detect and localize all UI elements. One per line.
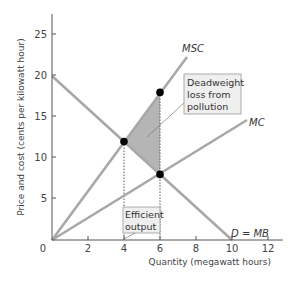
mc-label: MC (249, 117, 265, 128)
efficient-output-leader-line (124, 233, 135, 239)
x-tick-label: 6 (157, 243, 163, 254)
y-tick-label: 20 (34, 70, 47, 81)
dwl-annotation-line3: pollution (187, 101, 228, 112)
msc-curve (52, 57, 187, 240)
dwl-annotation-line2: loss from (187, 89, 230, 100)
x-axis-title: Quantity (megawatt hours) (149, 257, 271, 267)
y-tick-label: 15 (34, 111, 47, 122)
x-tick-label: 2 (85, 243, 91, 254)
msc-market-point (156, 89, 164, 97)
y-tick-label: 10 (34, 152, 47, 163)
market-equilibrium-point (156, 171, 164, 179)
demand-mb-label: D = MB (231, 228, 269, 239)
efficient-output-line2: output (125, 221, 157, 232)
origin-label: 0 (40, 243, 46, 254)
y-tick-label: 25 (34, 29, 47, 40)
x-tick-label: 4 (121, 243, 127, 254)
x-tick-label: 10 (226, 243, 239, 254)
y-tick-label: 5 (41, 193, 47, 204)
x-tick-label: 12 (262, 243, 275, 254)
y-axis-title: Price and cost (cents per kilowatt hour) (16, 38, 26, 215)
efficient-output-line1: Efficient (125, 209, 164, 220)
chart-canvas: 25 20 15 10 5 0 2 4 6 8 10 12 Quantity (… (0, 0, 300, 282)
x-tick-label: 8 (193, 243, 199, 254)
msc-label: MSC (182, 43, 204, 54)
efficient-point (120, 138, 128, 146)
dwl-annotation-line1: Deadweight (187, 77, 244, 88)
y-ticks (52, 34, 56, 198)
